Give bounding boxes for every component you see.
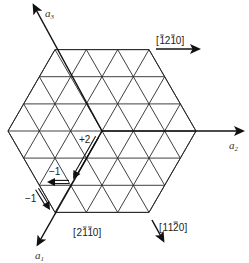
grid-line: [86, 50, 164, 186]
miller-index-text: [2110]: [73, 227, 102, 238]
lattice-diagram: a3 a2 a1 [1210] [1120] [2110] +2 −1 −1: [0, 0, 249, 263]
direction-label-top: [1210]: [156, 35, 185, 46]
direction-label-bottom-right: [1120]: [159, 222, 188, 233]
component-label-plus2: +2: [79, 134, 91, 145]
component-label-minus1-a2: −1: [49, 166, 61, 177]
direction-label-bottom-left: [2110]: [73, 227, 102, 238]
grid-line: [86, 77, 164, 213]
axes-group: [34, 6, 242, 244]
miller-index-text: [1210]: [156, 35, 185, 46]
direction-arrows: [152, 49, 198, 240]
miller-index-text: [1120]: [159, 222, 188, 233]
component-label-minus1-a3: −1: [25, 193, 37, 204]
minus1-a2-arrowhead-icon: [47, 178, 55, 186]
grid-line: [39, 50, 117, 186]
axis-label-a3: a3: [45, 7, 55, 21]
component-vectors: [36, 136, 99, 210]
axis-label-a1: a1: [35, 249, 44, 263]
axis-label-a2: a2: [229, 139, 239, 153]
